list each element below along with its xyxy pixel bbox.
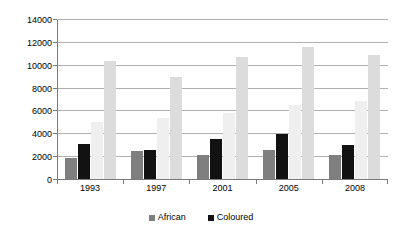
x-axis-labels: 19931997200120052008 xyxy=(57,184,388,200)
legend-item[interactable]: Coloured xyxy=(208,213,254,222)
legend-label: African xyxy=(158,213,186,222)
bar xyxy=(78,144,90,180)
legend-swatch-icon xyxy=(208,215,214,221)
y-tick-label: 4000 xyxy=(32,130,52,139)
bar xyxy=(329,155,341,180)
x-tick-label: 2008 xyxy=(345,184,365,193)
y-tick-label: 10000 xyxy=(27,61,52,70)
bar-group xyxy=(256,20,322,180)
bar-group xyxy=(189,20,255,180)
bar xyxy=(157,118,169,180)
x-tick-label: 2001 xyxy=(212,184,232,193)
bar xyxy=(91,122,103,180)
x-tick-label: 1993 xyxy=(80,184,100,193)
bar-group xyxy=(322,20,388,180)
y-tick-label: 14000 xyxy=(27,16,52,25)
y-tick-label: 8000 xyxy=(32,84,52,93)
bar xyxy=(65,158,77,180)
bar-group xyxy=(123,20,189,180)
bar xyxy=(263,150,275,180)
x-tick-label: 2005 xyxy=(279,184,299,193)
y-tick-label: 6000 xyxy=(32,107,52,116)
y-tick-label: 0 xyxy=(47,176,52,185)
bar xyxy=(131,151,143,180)
chart-legend: AfricanColoured xyxy=(0,213,402,222)
bar xyxy=(210,139,222,180)
bar xyxy=(276,134,288,180)
bar xyxy=(223,113,235,180)
legend-swatch-icon xyxy=(149,215,155,221)
y-tick-label: 2000 xyxy=(32,153,52,162)
bar xyxy=(170,77,182,180)
y-axis-labels: 02000400060008000100001200014000 xyxy=(0,20,52,180)
bar xyxy=(197,155,209,180)
bar xyxy=(302,47,314,180)
x-tick-label: 1997 xyxy=(146,184,166,193)
bar xyxy=(104,61,116,180)
legend-label: Coloured xyxy=(217,213,254,222)
bar xyxy=(289,105,301,180)
legend-item[interactable]: African xyxy=(149,213,186,222)
bar xyxy=(144,150,156,180)
bar xyxy=(355,101,367,180)
plot-area xyxy=(57,20,388,180)
bar xyxy=(236,57,248,180)
bar xyxy=(342,145,354,180)
bar-chart: 02000400060008000100001200014000 1993199… xyxy=(0,0,402,238)
bar xyxy=(368,55,380,180)
bar-group xyxy=(57,20,123,180)
y-axis-line xyxy=(57,20,58,180)
y-tick-label: 12000 xyxy=(27,38,52,47)
